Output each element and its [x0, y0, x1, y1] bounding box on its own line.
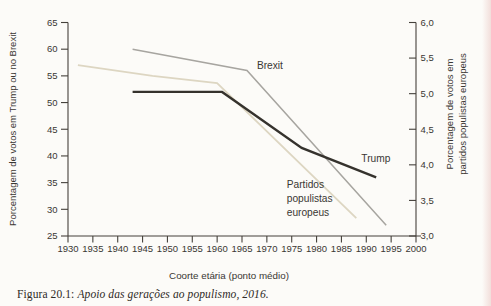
x-tick-label-1970: 1970	[256, 243, 277, 254]
populism-line-chart: 1930193519401945195019551960196519701975…	[0, 0, 491, 306]
brexit-line-label: Brexit	[257, 60, 283, 71]
y-left-tick-label-30: 30	[47, 204, 58, 215]
y-right-tick-label-3,0: 3,0	[421, 230, 434, 241]
x-tick-label-1965: 1965	[231, 243, 252, 254]
x-tick-label-1935: 1935	[82, 243, 103, 254]
x-tick-label-1930: 1930	[57, 243, 78, 254]
y-left-tick-label-35: 35	[47, 177, 58, 188]
x-tick-label-1955: 1955	[182, 243, 203, 254]
x-tick-label-1975: 1975	[281, 243, 302, 254]
x-tick-label-1980: 1980	[306, 243, 327, 254]
y-right-tick-label-4,0: 4,0	[421, 159, 434, 170]
trump-line-label: Trump	[361, 153, 390, 164]
figure-caption-title: Apoio das gerações ao populismo, 2016.	[77, 288, 268, 300]
y-left-tick-label-50: 50	[47, 97, 58, 108]
x-tick-label-1995: 1995	[381, 243, 402, 254]
x-axis-title: Coorte etária (ponto médio)	[169, 270, 289, 281]
figure-caption-number: Figura 20.1:	[17, 288, 77, 300]
y-right-axis-title-line2: partidos populistas europeus	[457, 53, 468, 175]
y-right-tick-label-4,5: 4,5	[421, 124, 434, 135]
y-left-tick-label-45: 45	[47, 124, 58, 135]
populist-line-label-1: Partidos	[287, 179, 324, 190]
x-tick-label-1990: 1990	[356, 243, 377, 254]
book-page: 1930193519401945195019551960196519701975…	[0, 0, 491, 306]
y-left-tick-label-60: 60	[47, 43, 58, 54]
y-right-axis-title-line1: Porcentagem de votos em	[444, 58, 455, 169]
brexit-line-series	[133, 49, 387, 225]
y-right-tick-label-6,0: 6,0	[421, 17, 434, 28]
figure-caption: Figura 20.1: Apoio das gerações ao popul…	[17, 288, 269, 300]
x-tick-label-2000: 2000	[405, 243, 426, 254]
y-left-tick-label-55: 55	[47, 70, 58, 81]
y-left-axis-title: Porcentagem de votos em Trump ou no Brex…	[7, 32, 18, 226]
y-right-tick-label-5,0: 5,0	[421, 88, 434, 99]
x-tick-label-1940: 1940	[107, 243, 128, 254]
x-tick-label-1985: 1985	[331, 243, 352, 254]
page-edge-shadow	[482, 0, 491, 306]
populist-line-label-2: populistas	[287, 193, 333, 204]
y-right-tick-label-3,5: 3,5	[421, 195, 434, 206]
y-left-tick-label-65: 65	[47, 17, 58, 28]
y-left-tick-label-25: 25	[47, 230, 58, 241]
x-tick-label-1960: 1960	[207, 243, 228, 254]
x-tick-label-1945: 1945	[132, 243, 153, 254]
y-left-tick-label-40: 40	[47, 150, 58, 161]
populist-line-label-3: europeus	[287, 207, 329, 218]
y-right-tick-label-5,5: 5,5	[421, 52, 434, 63]
x-tick-label-1950: 1950	[157, 243, 178, 254]
trump-line-series	[133, 92, 377, 177]
